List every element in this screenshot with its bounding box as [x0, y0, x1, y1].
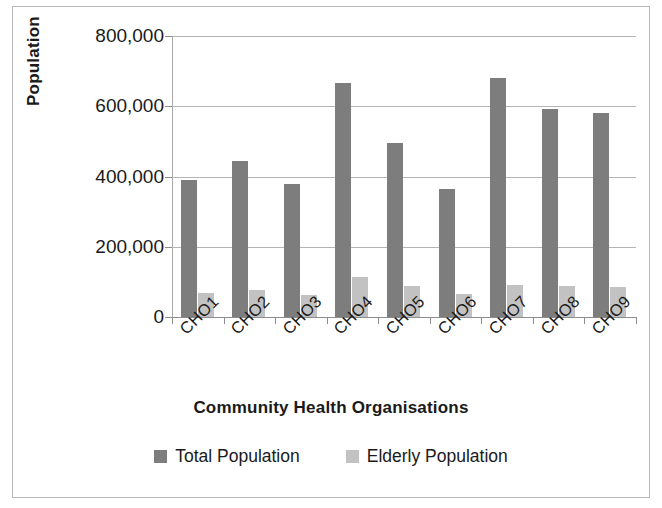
bar-cho5-total [387, 143, 403, 317]
bar-cho6-total [439, 189, 455, 317]
bar-cho2-total [232, 161, 248, 317]
y-axis-tick [165, 247, 172, 248]
y-axis-tick-label: 400,000 [54, 166, 164, 188]
y-axis-tick [165, 36, 172, 37]
x-axis-title: Community Health Organisations [0, 398, 662, 418]
y-axis-tick-label: 800,000 [54, 25, 164, 47]
legend-label: Elderly Population [367, 446, 508, 467]
bar-cho9-total [593, 113, 609, 317]
legend-swatch-icon [346, 450, 359, 463]
y-axis-tick-label: 200,000 [54, 236, 164, 258]
bar-cho7-total [490, 78, 506, 317]
legend-swatch-icon [154, 450, 167, 463]
y-axis-tick-labels: 0200,000400,000600,000800,000 [52, 36, 164, 317]
x-axis-category-labels: CHO1CHO2CHO3CHO4CHO5CHO6CHO7CHO8CHO9 [172, 319, 636, 389]
y-axis-tick [165, 317, 172, 318]
gridline [172, 36, 636, 37]
bar-cho4-total [335, 83, 351, 317]
plot-area [172, 36, 636, 317]
y-axis-title: Population [14, 0, 54, 136]
y-axis-tick [165, 177, 172, 178]
bar-cho3-total [284, 184, 300, 317]
bar-cho1-total [181, 180, 197, 317]
legend-label: Total Population [175, 446, 300, 467]
bar-chart-figure: Population 0200,000400,000600,000800,000… [0, 0, 662, 508]
legend-item[interactable]: Elderly Population [346, 446, 508, 467]
x-axis-tick [636, 317, 637, 324]
bar-cho8-total [542, 109, 558, 317]
legend-item[interactable]: Total Population [154, 446, 300, 467]
chart-legend: Total PopulationElderly Population [0, 446, 662, 467]
y-axis-tick-label: 0 [54, 306, 164, 328]
gridline [172, 106, 636, 107]
y-axis-tick-label: 600,000 [54, 95, 164, 117]
y-axis-tick [165, 106, 172, 107]
